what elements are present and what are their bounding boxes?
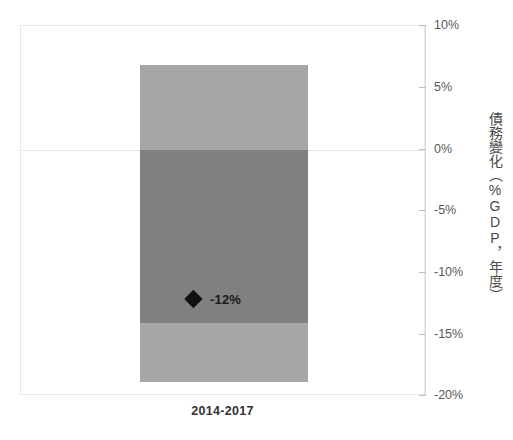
bar-segment-upper	[140, 65, 308, 150]
bar-segment-lower	[140, 323, 308, 382]
y-axis-label-neg20: -20%	[434, 388, 463, 402]
y-axis-label-neg10: -10%	[434, 265, 463, 279]
chart-container: -12% 10% 5% 0% -5% -10% -15% -20% 債務變化（%…	[0, 0, 513, 440]
plot-area: -12%	[20, 25, 425, 395]
y-axis-tick-neg5	[419, 210, 426, 211]
y-axis-label-neg5: -5%	[434, 203, 456, 217]
y-axis-tick-neg20	[419, 395, 426, 396]
y-axis-label-10: 10%	[434, 18, 459, 32]
y-axis-label-5: 5%	[434, 80, 452, 94]
y-axis-tick-5	[419, 87, 426, 88]
y-axis-title: 債務變化（%GDP，年度）	[472, 112, 502, 302]
x-axis-category-label: 2014-2017	[20, 404, 425, 418]
y-axis-label-0: 0%	[434, 142, 452, 156]
data-point-marker[interactable]: -12%	[187, 292, 241, 307]
y-axis-label-neg15: -15%	[434, 327, 463, 341]
y-axis-tick-10	[419, 25, 426, 26]
data-point-label: -12%	[210, 292, 241, 307]
y-axis-tick-neg15	[419, 334, 426, 335]
bar-2014-2017[interactable]	[140, 65, 308, 382]
y-axis-tick-0	[419, 149, 426, 150]
diamond-marker-icon	[184, 290, 202, 308]
y-axis-tick-neg10	[419, 272, 426, 273]
